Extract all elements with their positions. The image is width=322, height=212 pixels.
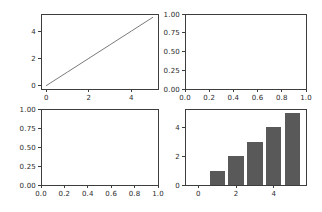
x-tick-label: 0.4	[228, 94, 240, 102]
subplot-bottom-right: 024024	[175, 109, 306, 198]
x-tick-label: 0.2	[203, 94, 215, 102]
x-tick-label: 2	[87, 94, 92, 102]
y-tick-label: 0	[31, 82, 36, 90]
x-tick-label: 0.8	[129, 190, 141, 198]
x-tick-label: 0.4	[82, 190, 94, 198]
figure-canvas: 0240240.00.20.40.60.81.00.000.250.500.75…	[0, 0, 322, 212]
y-tick-label: 0.00	[20, 182, 36, 190]
y-tick-label: 4	[175, 124, 180, 132]
x-tick-label: 0.6	[252, 94, 264, 102]
x-tick-label: 1.0	[300, 94, 312, 102]
x-tick-label: 2	[234, 190, 239, 198]
y-tick-label: 0.00	[164, 86, 180, 94]
plot-area	[41, 109, 158, 185]
x-tick-label: 0.2	[59, 190, 71, 198]
x-tick-label: 0.0	[35, 190, 47, 198]
subplot-top-right: 0.00.20.40.60.81.00.000.250.500.751.00	[164, 11, 312, 103]
x-tick-label: 0.6	[105, 190, 117, 198]
subplot-top-left: 024024	[31, 14, 158, 102]
bar	[285, 113, 300, 185]
plot-area	[185, 14, 306, 89]
y-tick-label: 1.00	[20, 106, 36, 114]
y-tick-label: 0.50	[164, 48, 180, 56]
y-tick-label: 0.50	[20, 144, 36, 152]
x-tick-label: 0	[196, 190, 201, 198]
subplot-bottom-left: 0.00.20.40.60.81.00.000.250.500.751.00	[20, 106, 164, 199]
y-tick-label: 1.00	[164, 11, 180, 19]
figure: 0240240.00.20.40.60.81.00.000.250.500.75…	[0, 0, 322, 212]
y-tick-label: 2	[175, 153, 180, 161]
x-tick-label: 4	[129, 94, 134, 102]
y-tick-label: 0.25	[164, 67, 180, 75]
bar	[247, 142, 262, 185]
y-tick-label: 2	[31, 55, 36, 63]
y-tick-label: 0	[175, 182, 180, 190]
x-tick-label: 1.0	[152, 190, 164, 198]
bar	[266, 127, 281, 185]
bar	[210, 171, 225, 185]
x-tick-label: 0.0	[179, 94, 191, 102]
y-tick-label: 4	[31, 28, 36, 36]
x-tick-label: 0	[44, 94, 49, 102]
bar	[228, 156, 243, 185]
y-tick-label: 0.25	[20, 163, 36, 171]
x-tick-label: 4	[272, 190, 277, 198]
y-tick-label: 0.75	[20, 125, 36, 133]
x-tick-label: 0.8	[276, 94, 288, 102]
y-tick-label: 0.75	[164, 29, 180, 37]
